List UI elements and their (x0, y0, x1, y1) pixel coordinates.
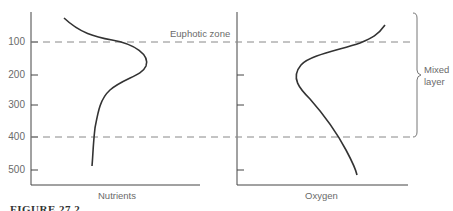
oxygen-axis-label: Oxygen (305, 190, 338, 201)
tick-100: 100 (3, 36, 25, 47)
tick-500: 500 (3, 164, 25, 175)
euphotic-zone-label: Euphotic zone (170, 28, 230, 39)
oxygen-curve (296, 25, 385, 175)
tick-200: 200 (3, 69, 25, 80)
tick-400: 400 (3, 131, 25, 142)
right-panel-axes (237, 12, 408, 185)
nutrients-curve (64, 18, 147, 166)
tick-300: 300 (3, 99, 25, 110)
reference-lines (31, 42, 412, 137)
nutrients-axis-label: Nutrients (98, 190, 136, 201)
layer-label: layer (424, 76, 445, 87)
mixed-layer-brace (413, 13, 421, 137)
figure-caption: FIGURE 27.2 (10, 203, 80, 211)
mixed-label: Mixed (424, 64, 449, 75)
